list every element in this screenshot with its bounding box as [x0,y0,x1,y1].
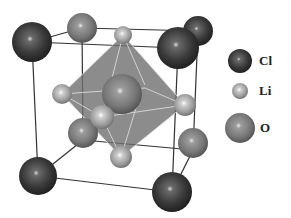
atom-li [174,94,196,116]
legend-label-cl: Cl [259,53,272,69]
atom-o [67,13,97,43]
atom-li [90,105,114,129]
atom-li [110,146,132,168]
atom-li [114,26,132,44]
atom-cl [157,27,199,69]
cell-edge [32,42,38,176]
legend-swatch-o [225,113,255,143]
legend [225,49,255,143]
legend-label-li: Li [259,83,271,99]
atom-cl [152,172,192,212]
atoms [12,13,213,212]
crystal-structure-diagram [0,0,291,218]
legend-label-o: O [260,120,270,136]
cell-edge [32,42,178,48]
legend-swatch-li [232,83,248,99]
cell-edge [172,48,178,192]
atom-o [178,128,208,158]
cell-edge [38,176,172,192]
atom-cl [12,22,52,62]
atom-li [52,84,72,104]
legend-swatch-cl [228,49,252,73]
atom-cl [19,157,57,195]
